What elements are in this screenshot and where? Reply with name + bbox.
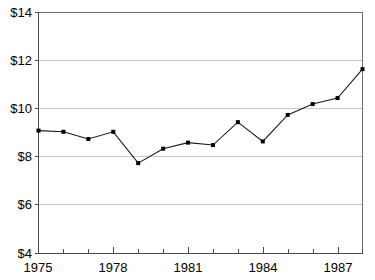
data-point-marker [336, 96, 340, 100]
data-point-marker [86, 137, 90, 141]
x-axis-label-1975: 1975 [24, 260, 53, 275]
y-axis-label-12: $12 [10, 53, 32, 68]
gridlines-group [39, 61, 363, 205]
y-tick-marks-group [35, 13, 39, 254]
data-point-marker [136, 161, 140, 165]
y-axis-label-14: $14 [10, 5, 32, 20]
data-point-marker [261, 139, 265, 143]
data-point-marker [361, 67, 365, 71]
data-point-marker [236, 120, 240, 124]
data-point-marker [211, 143, 215, 147]
y-axis-label-10: $10 [10, 101, 32, 116]
series-markers-group [37, 67, 365, 165]
data-point-marker [286, 113, 290, 117]
y-axis-labels-group: $14 $12 $10 $8 $6 $4 [10, 5, 32, 261]
data-point-marker [186, 141, 190, 145]
data-point-marker [161, 147, 165, 151]
y-axis-label-6: $6 [18, 197, 32, 212]
x-tick-marks-group [39, 247, 363, 254]
data-point-marker [61, 130, 65, 134]
data-point-marker [311, 102, 315, 106]
line-chart-figure: $14 $12 $10 $8 $6 $4 1975 1978 1 [0, 0, 375, 280]
x-axis-label-1978: 1978 [99, 260, 128, 275]
x-axis-label-1987: 1987 [324, 260, 353, 275]
x-axis-label-1984: 1984 [249, 260, 278, 275]
y-axis-label-4: $4 [18, 246, 32, 261]
series-line-price [39, 69, 363, 163]
chart-canvas: $14 $12 $10 $8 $6 $4 1975 1978 1 [0, 0, 375, 280]
data-point-marker [111, 130, 115, 134]
plot-frame-group [39, 13, 363, 254]
y-axis-label-8: $8 [18, 149, 32, 164]
data-point-marker [37, 129, 41, 133]
x-axis-label-1981: 1981 [174, 260, 203, 275]
x-axis-labels-group: 1975 1978 1981 1984 1987 [24, 260, 353, 275]
